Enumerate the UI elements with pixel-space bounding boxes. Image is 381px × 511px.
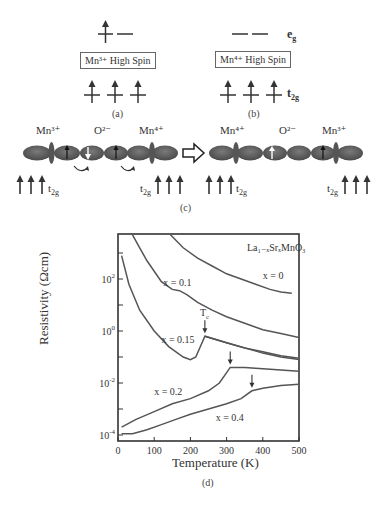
left-orbital-chain (23, 142, 178, 171)
y-tick-label: 10-2 (99, 376, 115, 389)
panel-a: Mn³⁺ High Spin (a) (0, 0, 190, 120)
resistivity-chart: 010020030040050010210010-210-4x = 0x = 0… (0, 215, 381, 511)
curve-label: x = 0.15 (161, 334, 194, 345)
eg-label: eg (287, 27, 296, 43)
t2g-label: t2g (236, 182, 247, 197)
series-line (122, 384, 299, 433)
mn4-high-spin-label: Mn⁴⁺ High Spin (215, 51, 291, 68)
right-orbital-chain (209, 142, 363, 164)
chart-title: La₁₋ₓSrₓMnO₃ (247, 242, 306, 253)
caption-d: (d) (202, 477, 214, 488)
panel-b: eg Mn⁴⁺ High Spin t2g (b) (190, 0, 381, 120)
curve-label: x = 0.2 (154, 386, 182, 397)
t2g-spin-arrows (17, 175, 371, 194)
y-tick-label: 100 (102, 324, 116, 337)
x-tick-label: 500 (292, 445, 307, 456)
t2g-levels-mn3-icon (82, 79, 162, 107)
caption-a: (a) (112, 108, 123, 119)
caption-c: (c) (180, 202, 191, 213)
tc-label: Tc (200, 307, 209, 321)
t2g-label: t2g (48, 182, 59, 197)
series-line (122, 367, 299, 427)
t2g-label: t2g (327, 182, 338, 197)
t2g-levels-mn4-icon (218, 79, 298, 107)
mn3-high-spin-label: Mn³⁺ High Spin (80, 52, 156, 69)
caption-b: (b) (248, 108, 260, 119)
orbital-chain-diagram (0, 120, 381, 215)
eg-levels-mn4-icon (230, 18, 290, 48)
panel-c: Mn³⁺ O²⁻ Mn⁴⁺ Mn⁴⁺ O²⁻ Mn³⁺ (0, 120, 381, 215)
y-tick-label: 102 (102, 272, 116, 285)
t2g-label: t2g (140, 182, 151, 197)
t2g-label: t2g (287, 86, 299, 102)
x-tick-label: 0 (116, 445, 121, 456)
y-tick-label: 10-4 (99, 428, 115, 441)
x-axis-label: Temperature (K) (172, 455, 259, 471)
eg-levels-mn3-icon (95, 18, 155, 48)
curve-label: x = 0 (263, 270, 284, 281)
transfer-arrow-icon (183, 144, 204, 162)
y-axis-label: Resistivity (Ωcm) (36, 252, 52, 345)
x-tick-label: 100 (147, 445, 162, 456)
curve-label: x = 0.1 (163, 277, 191, 288)
curve-label: x = 0.4 (216, 412, 244, 423)
